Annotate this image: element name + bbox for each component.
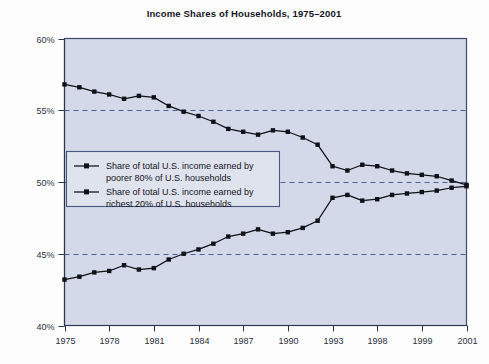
x-tick-label-2001: 2001 xyxy=(457,336,477,346)
data-point-poorer-80-12 xyxy=(241,130,245,134)
data-point-richest-20-13 xyxy=(256,227,260,231)
x-tick-label-1993: 1993 xyxy=(323,336,343,346)
data-point-poorer-80-11 xyxy=(226,127,230,131)
data-point-poorer-80-6 xyxy=(152,95,156,99)
data-point-poorer-80-19 xyxy=(345,168,349,172)
data-point-richest-20-21 xyxy=(375,197,379,201)
data-point-poorer-80-17 xyxy=(315,142,319,146)
data-point-richest-20-10 xyxy=(211,242,215,246)
data-point-poorer-80-15 xyxy=(286,130,290,134)
data-point-richest-20-12 xyxy=(241,231,245,235)
data-point-richest-20-22 xyxy=(390,193,394,197)
data-point-richest-20-11 xyxy=(226,234,230,238)
data-point-richest-20-23 xyxy=(405,191,409,195)
data-point-richest-20-9 xyxy=(196,247,200,251)
data-point-richest-20-1 xyxy=(77,275,81,279)
data-point-poorer-80-25 xyxy=(435,174,439,178)
x-tick-label-1990: 1990 xyxy=(278,336,298,346)
legend-label-richest-20-line2: richest 20% of U.S. households xyxy=(106,199,232,209)
x-tick-label-1975: 1975 xyxy=(55,336,75,346)
data-point-poorer-80-18 xyxy=(330,164,334,168)
x-tick-label-1981: 1981 xyxy=(144,336,164,346)
data-point-richest-20-3 xyxy=(107,269,111,273)
y-tick-label-55: 55% xyxy=(36,106,54,116)
legend-sample-marker-poorer-80 xyxy=(84,163,89,168)
x-tick-label-1998: 1998 xyxy=(367,336,387,346)
legend-label-poorer-80-line1: Share of total U.S. income earned by xyxy=(106,161,254,171)
data-point-richest-20-15 xyxy=(286,230,290,234)
data-point-poorer-80-16 xyxy=(301,135,305,139)
chart-title: Income Shares of Households, 1975–2001 xyxy=(147,8,342,19)
data-point-richest-20-24 xyxy=(420,190,424,194)
x-tick-label-1999: 1999 xyxy=(412,336,432,346)
legend-sample-marker-richest-20 xyxy=(84,189,89,194)
data-point-poorer-80-1 xyxy=(77,85,81,89)
data-point-poorer-80-4 xyxy=(122,97,126,101)
data-point-poorer-80-22 xyxy=(390,168,394,172)
data-point-richest-20-26 xyxy=(449,186,453,190)
data-point-richest-20-18 xyxy=(330,196,334,200)
y-tick-label-60: 60% xyxy=(36,35,54,45)
data-point-richest-20-7 xyxy=(167,257,171,261)
data-point-poorer-80-0 xyxy=(62,82,66,86)
legend-label-richest-20-line1: Share of total U.S. income earned by xyxy=(106,187,254,197)
data-point-richest-20-8 xyxy=(181,252,185,256)
data-point-poorer-80-14 xyxy=(271,128,275,132)
y-tick-label-40: 40% xyxy=(36,322,54,332)
x-tick-label-1987: 1987 xyxy=(233,336,253,346)
data-point-poorer-80-3 xyxy=(107,92,111,96)
data-point-richest-20-19 xyxy=(345,193,349,197)
data-point-richest-20-5 xyxy=(137,267,141,271)
data-point-poorer-80-8 xyxy=(181,109,185,113)
data-point-richest-20-20 xyxy=(360,198,364,202)
data-point-poorer-80-2 xyxy=(92,89,96,93)
data-point-richest-20-27 xyxy=(464,184,468,188)
data-point-richest-20-2 xyxy=(92,270,96,274)
data-point-poorer-80-24 xyxy=(420,173,424,177)
data-point-poorer-80-20 xyxy=(360,163,364,167)
data-point-poorer-80-21 xyxy=(375,164,379,168)
chart-legend: Share of total U.S. income earned by poo… xyxy=(67,152,280,210)
data-point-richest-20-0 xyxy=(62,277,66,281)
data-point-richest-20-6 xyxy=(152,266,156,270)
data-point-poorer-80-7 xyxy=(167,104,171,108)
data-point-richest-20-16 xyxy=(301,226,305,230)
data-point-poorer-80-23 xyxy=(405,171,409,175)
data-point-richest-20-17 xyxy=(315,219,319,223)
legend-label-poorer-80-line2: poorer 80% of U.S. households xyxy=(106,173,232,183)
data-point-richest-20-25 xyxy=(435,188,439,192)
data-point-poorer-80-9 xyxy=(196,114,200,118)
y-tick-label-50: 50% xyxy=(36,178,54,188)
data-point-poorer-80-13 xyxy=(256,132,260,136)
x-tick-label-1978: 1978 xyxy=(99,336,119,346)
data-point-poorer-80-10 xyxy=(211,120,215,124)
x-tick-label-1984: 1984 xyxy=(189,336,209,346)
data-point-poorer-80-26 xyxy=(449,178,453,182)
chart-figure: Income Shares of Households, 1975–2001 4… xyxy=(0,0,489,364)
data-point-richest-20-14 xyxy=(271,231,275,235)
y-tick-label-45: 45% xyxy=(36,250,54,260)
data-point-poorer-80-5 xyxy=(137,94,141,98)
data-point-richest-20-4 xyxy=(122,263,126,267)
